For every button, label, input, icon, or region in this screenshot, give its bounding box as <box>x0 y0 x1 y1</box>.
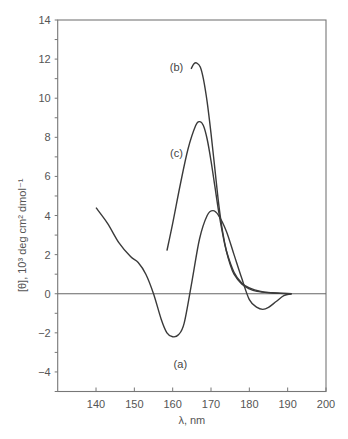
y-axis-title: [θ], 10³ deg cm² dmol⁻¹ <box>16 178 28 292</box>
plot-frame <box>58 20 326 392</box>
y-tick-label: 4 <box>45 210 51 222</box>
x-tick-label: 180 <box>240 398 258 410</box>
y-tick-label: 2 <box>45 249 51 261</box>
curve-label-b: (b) <box>170 61 183 73</box>
x-tick-label: 200 <box>317 398 335 410</box>
curve-a <box>96 208 291 337</box>
y-tick-label: 10 <box>38 92 50 104</box>
x-tick-label: 140 <box>87 398 105 410</box>
y-tick-label: 6 <box>45 170 51 182</box>
x-tick-label: 160 <box>164 398 182 410</box>
curve-label-c: (c) <box>170 147 183 159</box>
curve-c <box>167 122 292 294</box>
curve-b <box>191 63 291 294</box>
cd-spectrum-chart: −4−202468101214140150160170180190200λ, n… <box>0 0 348 439</box>
x-axis-title: λ, nm <box>178 414 205 426</box>
curve-label-a: (a) <box>174 358 187 370</box>
y-tick-label: −2 <box>38 327 51 339</box>
plot-curves <box>96 63 291 337</box>
y-tick-label: 0 <box>45 288 51 300</box>
x-tick-label: 150 <box>125 398 143 410</box>
y-tick-label: 8 <box>45 131 51 143</box>
y-tick-label: −4 <box>38 366 51 378</box>
x-tick-label: 190 <box>278 398 296 410</box>
x-tick-label: 170 <box>202 398 220 410</box>
y-tick-label: 14 <box>38 14 50 26</box>
y-tick-label: 12 <box>38 53 50 65</box>
